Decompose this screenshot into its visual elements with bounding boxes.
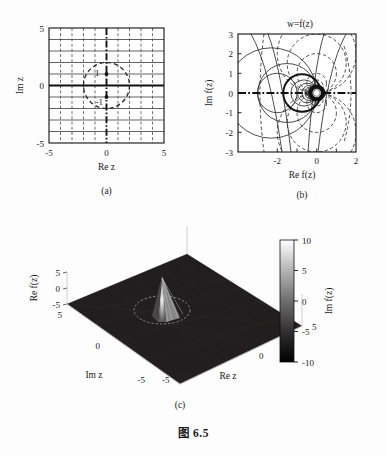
panel-c-xtick-1: 0 (259, 351, 264, 361)
panel-a-xtick-1: 0 (104, 148, 109, 158)
panel-b-ylabel: Im f(z) (204, 80, 215, 107)
panel-c: 5 0 -5 Re f(z) 5 0 -5 Im z 5 0 -5 Re z (12, 226, 387, 426)
panel-c-letter: (c) (175, 400, 186, 411)
panel-a-marker-minus-i (105, 95, 109, 99)
panel-b-ytick-4: -1 (226, 108, 234, 118)
panel-c-ztick-0: 5 (56, 268, 61, 278)
panel-a-xlabel: Re z (98, 162, 115, 172)
panel-a-annotation-minus-1: -1 (96, 97, 104, 107)
panel-a-ytick-1: 0 (40, 81, 45, 91)
panel-b-xtick-1: 0 (314, 156, 319, 166)
panel-b-ytick-5: -2 (226, 128, 234, 138)
colorbar-label: Im f(z) (324, 288, 335, 315)
panel-b-ytick-1: 2 (229, 49, 234, 59)
panel-b-xtick-0: -2 (274, 156, 282, 166)
figure-root: 1 -1 5 0 -5 -5 0 5 Re z Im z (a) (0, 0, 387, 456)
colorbar-tick-2: 0 (302, 297, 307, 307)
panel-b-letter: (b) (296, 190, 307, 201)
panel-c-plot: 5 0 -5 Re f(z) 5 0 -5 Im z 5 0 -5 Re z (12, 226, 387, 426)
panel-c-ytick-2: -5 (138, 375, 146, 385)
colorbar-tick-4: -10 (302, 358, 314, 368)
panel-c-xlabel: Re z (219, 371, 236, 381)
colorbar-tick-0: 10 (302, 236, 312, 246)
figure-caption: 图 6.5 (0, 424, 387, 440)
panel-b-ytick-6: -3 (226, 148, 234, 158)
panel-c-ztick-2: -5 (53, 300, 61, 310)
panel-b-ytick-0: 3 (229, 30, 234, 40)
panel-c-ytick-0: 5 (58, 310, 63, 320)
panel-a-ytick-2: -5 (37, 139, 45, 149)
panel-b-ytick-3: 0 (229, 89, 234, 99)
panel-b-singularity-cluster (308, 84, 325, 101)
panel-c-ztick-marks (63, 272, 67, 305)
panel-c-ztick-1: 0 (56, 284, 61, 294)
panel-a-annotation-1: 1 (95, 68, 100, 78)
panel-a-xtick-2: 5 (162, 148, 167, 158)
panel-c-ytick-1: 0 (96, 341, 101, 351)
panel-a-ytick-0: 5 (40, 24, 45, 34)
panel-b-xtick-2: 2 (354, 156, 359, 166)
colorbar-tick-3: -5 (302, 327, 310, 337)
panel-b-plot: w=f(z) (196, 10, 384, 215)
panel-c-xtick-2: -5 (162, 375, 170, 385)
panel-c-surface (67, 254, 302, 384)
panel-c-zlabel: Re f(z) (29, 275, 40, 302)
panel-a-marker-plus-i (105, 72, 109, 76)
panel-a: 1 -1 5 0 -5 -5 0 5 Re z Im z (a) (4, 10, 189, 215)
panel-a-xtick-0: -5 (45, 148, 53, 158)
panel-b-xlabel: Re f(z) (289, 170, 316, 181)
panel-a-letter: (a) (101, 186, 112, 197)
panel-b-title: w=f(z) (287, 19, 313, 30)
panel-a-ylabel: Im z (15, 77, 25, 94)
panel-c-ylabel: Im z (85, 370, 102, 380)
colorbar-tick-marks (294, 240, 298, 362)
panel-c-xtick-0: 5 (312, 322, 317, 332)
colorbar (280, 240, 294, 362)
colorbar-tick-1: 5 (302, 266, 307, 276)
panel-a-plot: 1 -1 5 0 -5 -5 0 5 Re z Im z (a) (4, 10, 189, 215)
panel-b-ytick-2: 1 (229, 69, 234, 79)
panel-b: w=f(z) (196, 10, 384, 215)
